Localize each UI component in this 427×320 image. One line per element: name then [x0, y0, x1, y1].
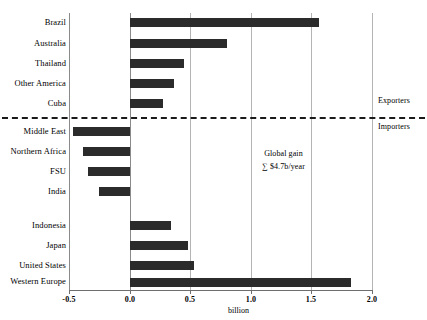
left-axis-line: [69, 13, 70, 290]
x-tick-label-0.5: 0.5: [175, 295, 205, 304]
bar-fsu: [88, 167, 130, 176]
x-tick-label-1.5: 1.5: [296, 295, 326, 304]
x-tick-mark-0.0: [130, 290, 131, 294]
category-label-indonesia: Indonesia: [32, 220, 66, 230]
gridline-1.0: [251, 13, 252, 290]
x-tick-mark--0.5: [69, 290, 70, 294]
category-label-cuba: Cuba: [48, 98, 66, 108]
bar-middle-east: [73, 127, 130, 136]
x-tick-label-2.0: 2.0: [357, 295, 387, 304]
x-tick-mark-0.5: [190, 290, 191, 294]
bar-australia: [130, 39, 227, 48]
x-axis-title: billion: [228, 306, 249, 315]
bar-other-america: [130, 79, 174, 88]
gridline-0.5: [190, 13, 191, 290]
x-tick-label--0.5: -0.5: [54, 295, 84, 304]
global-gain-annotation: Global gain ∑ $4.7b/year: [262, 147, 305, 173]
bar-united-states: [130, 261, 194, 270]
bar-indonesia: [130, 221, 171, 230]
category-label-australia: Australia: [34, 38, 66, 48]
bar-northern-africa: [83, 147, 130, 156]
category-label-japan: Japan: [46, 240, 66, 250]
category-label-united-states: United States: [19, 260, 66, 270]
x-tick-label-1.0: 1.0: [236, 295, 266, 304]
bar-japan: [130, 241, 188, 250]
exporters-annotation: Exporters: [378, 96, 410, 105]
x-tick-mark-1.0: [251, 290, 252, 294]
importers-annotation: Importers: [378, 122, 410, 131]
x-tick-label-0.0: 0.0: [115, 295, 145, 304]
bar-cuba: [130, 99, 163, 108]
category-label-thailand: Thailand: [35, 58, 66, 68]
global-gain-line-2: ∑ $4.7b/year: [262, 160, 305, 173]
category-label-western-europe: Western Europe: [10, 276, 66, 286]
x-tick-mark-1.5: [311, 290, 312, 294]
category-label-brazil: Brazil: [45, 17, 66, 27]
gridline-1.5: [311, 13, 312, 290]
category-label-middle-east: Middle East: [24, 126, 66, 136]
category-label-other-america: Other America: [14, 78, 66, 88]
x-axis-line: [69, 290, 373, 291]
bar-thailand: [130, 59, 184, 68]
bar-brazil: [130, 18, 319, 27]
category-label-northern-africa: Northern Africa: [10, 146, 66, 156]
gridline-2.0: [372, 13, 373, 290]
bar-india: [99, 187, 130, 196]
global-gain-line-1: Global gain: [264, 149, 303, 158]
bar-western-europe: [130, 278, 351, 287]
horizontal-bar-chart: Brazil Australia Thailand Other America …: [0, 0, 427, 320]
category-label-india: India: [48, 186, 66, 196]
category-label-fsu: FSU: [50, 166, 66, 176]
exporters-importers-divider: [2, 117, 425, 119]
x-tick-mark-2.0: [372, 290, 373, 294]
